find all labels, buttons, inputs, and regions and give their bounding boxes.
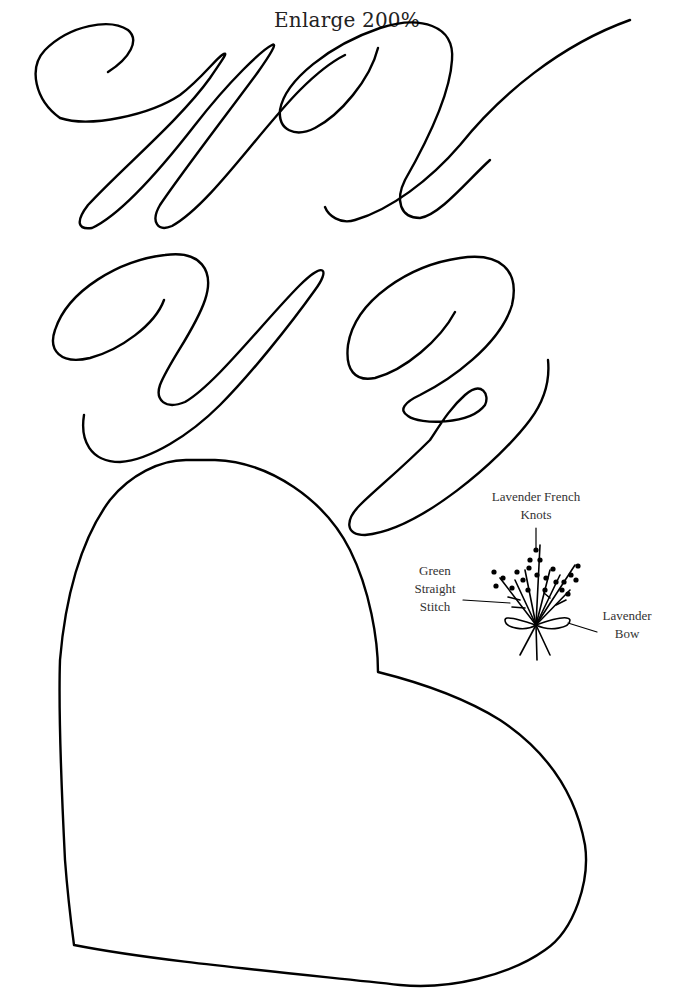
pattern-page: Enlarge 200% bbox=[0, 0, 694, 1008]
letter-x-outline bbox=[280, 20, 630, 221]
french-knots-dots bbox=[491, 547, 580, 596]
letter-y-outline bbox=[53, 254, 323, 462]
label-green-straight-stitch: Green Straight Stitch bbox=[405, 562, 465, 616]
label-lavender-bow: Lavender Bow bbox=[592, 607, 662, 643]
label-line: Straight bbox=[405, 580, 465, 598]
label-line: Bow bbox=[592, 625, 662, 643]
label-line: Green bbox=[405, 562, 465, 580]
lavender-bouquet-illustration bbox=[463, 528, 597, 660]
label-line: Lavender French bbox=[478, 488, 594, 506]
letter-w-outline bbox=[36, 24, 345, 228]
label-line: Lavender bbox=[592, 607, 662, 625]
label-lavender-french-knots: Lavender French Knots bbox=[478, 488, 594, 524]
label-line: Stitch bbox=[405, 598, 465, 616]
heart-template bbox=[59, 460, 585, 986]
label-line: Knots bbox=[478, 506, 594, 524]
